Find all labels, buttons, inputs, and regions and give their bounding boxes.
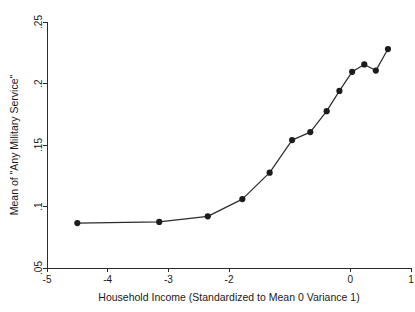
data-point-marker [349, 69, 355, 75]
data-point-marker [289, 137, 295, 143]
y-tick-label: .2 [33, 79, 44, 88]
x-tick-label: 0 [348, 274, 354, 285]
x-axis-title: Household Income (Standardized to Mean 0… [98, 291, 359, 303]
series-line-any-military-service [77, 49, 388, 223]
y-axis-title: Mean of "Any Military Service" [8, 74, 20, 215]
axes [47, 22, 411, 268]
data-point-marker [74, 220, 80, 226]
data-point-marker [361, 61, 367, 67]
data-point-marker [239, 196, 245, 202]
x-axis-ticks: -5-4-3-201 [43, 268, 415, 285]
x-tick-label: -2 [225, 274, 234, 285]
y-tick-label: .15 [33, 138, 44, 152]
x-tick-label: -4 [103, 274, 112, 285]
line-chart-canvas: .05.1.15.2.25 -5-4-3-201 Mean of "Any Mi… [0, 0, 415, 312]
data-point-marker [307, 129, 313, 135]
x-tick-label: -3 [164, 274, 173, 285]
series-markers [74, 46, 391, 226]
chart-figure: .05.1.15.2.25 -5-4-3-201 Mean of "Any Mi… [0, 0, 415, 312]
y-axis-ticks: .05.1.15.2.25 [33, 15, 48, 275]
data-point-marker [324, 108, 330, 114]
y-tick-label: .05 [33, 261, 44, 275]
x-tick-label: -5 [43, 274, 52, 285]
data-point-marker [385, 46, 391, 52]
data-point-marker [267, 170, 273, 176]
data-point-marker [373, 67, 379, 73]
x-tick-label: 1 [408, 274, 414, 285]
data-series-group [74, 46, 391, 226]
y-tick-label: .25 [33, 15, 44, 29]
data-point-marker [156, 219, 162, 225]
data-point-marker [336, 88, 342, 94]
data-point-marker [205, 213, 211, 219]
y-tick-label: .1 [33, 202, 44, 211]
